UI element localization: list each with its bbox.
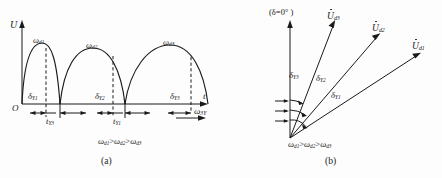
- peak-label-3: ωd3: [163, 38, 174, 47]
- angle-y2-sub: Y2: [320, 77, 326, 83]
- arc-leader-2-arrowhead: [284, 109, 289, 113]
- dim-arrow-2b-left: [125, 111, 131, 115]
- peak-label-2: ωd2: [86, 41, 97, 50]
- vector-ud2-sub: d2: [379, 27, 385, 33]
- dim-arrow-3a-left: [168, 111, 174, 115]
- arc-leader-3-arrowhead: [284, 99, 289, 103]
- inequality-b: ωd1>ωd2>ωd3: [288, 140, 331, 149]
- delta-label-1-sub: Y1: [32, 95, 38, 101]
- panel-a-caption-text: (a): [101, 156, 112, 166]
- vector-ud2-arrowhead: [372, 33, 381, 40]
- vector-ud3-line: [290, 26, 333, 138]
- delta-label-2: δY2: [95, 92, 105, 101]
- figure-container: | around delta_Y1 / t_Y3 -->: [0, 0, 442, 178]
- arc-leader-1-arrowhead: [284, 119, 289, 123]
- dim-arrow-2a-left: [97, 111, 103, 115]
- dim-arrow-1b-right: [81, 111, 87, 115]
- inequality-a-w3-sub: d3: [136, 140, 141, 146]
- panel-b-phasor: (δ=0° ) Ud3 Ud2 Ud1 δY3 δY2 δY1 ωd1>ωd2>…: [221, 0, 442, 178]
- vector-label-ud1: Ud1: [412, 42, 425, 52]
- peak-label-1: ωd1: [33, 36, 44, 45]
- origin-label-text: O: [12, 103, 19, 113]
- panel-a-waveform: | around delta_Y1 / t_Y3 -->: [0, 0, 221, 178]
- angle-y1-sub: Y1: [335, 94, 341, 100]
- vector-ud3-base-wrap: U: [327, 12, 334, 22]
- peak-label-2-sub: d2: [92, 44, 97, 50]
- delta-label-1: δY1: [28, 92, 38, 101]
- vector-label-ud2: Ud2: [372, 24, 385, 34]
- delta-label-2-sub: Y2: [99, 95, 105, 101]
- peak-label-3-sub: d3: [169, 41, 174, 47]
- reference-angle-label-text: (δ=0° ): [269, 7, 293, 17]
- vector-ud1-sub: d1: [419, 45, 425, 51]
- t-axis-arrowhead: [200, 101, 208, 107]
- dim-arrow-2a-right: [108, 111, 114, 115]
- inequality-b-w3-sub: d3: [326, 143, 331, 149]
- panel-b-caption: (b): [325, 156, 336, 166]
- delta-label-3: δY3: [170, 92, 180, 101]
- vector-ud1-base-wrap: U: [412, 42, 419, 52]
- vector-label-ud3: Ud3: [327, 12, 340, 22]
- time-label-1: tY3: [46, 117, 54, 126]
- delta-label-3-sub: Y3: [174, 95, 180, 101]
- waveform-arch-2: [60, 48, 125, 104]
- reference-axis-arrowhead: [287, 20, 293, 28]
- omega-3y-axis-label: ω3Y: [194, 107, 206, 117]
- dim-arrow-1a-left: [30, 111, 36, 115]
- dim-arrow-1a-right: [41, 111, 47, 115]
- time-label-2-sub: Y1: [115, 120, 121, 126]
- angle-arc-y2-arrowhead: [301, 113, 307, 118]
- angle-y3-sub: Y3: [293, 74, 299, 80]
- inequality-a: ωd1>ωd2>ωd3: [98, 137, 141, 146]
- y-axis-label-text: U: [10, 19, 17, 30]
- peak-label-1-sub: d1: [39, 39, 44, 45]
- vector-ud3-base: U: [327, 11, 334, 21]
- dim-arrow-2b-right: [145, 111, 151, 115]
- angle-label-delta-y1: δY1: [331, 91, 341, 100]
- vector-ud2-base-wrap: U: [372, 24, 379, 34]
- vector-ud3-sub: d3: [334, 15, 340, 21]
- y-axis-label: U: [10, 20, 17, 30]
- panel-a-graphics: | around delta_Y1 / t_Y3 -->: [0, 0, 221, 178]
- vector-ud2-base: U: [372, 23, 379, 33]
- origin-label: O: [12, 104, 19, 113]
- reference-angle-label: (δ=0° ): [269, 8, 293, 17]
- t-axis-label: t: [203, 92, 206, 101]
- time-label-1-sub: Y3: [48, 120, 54, 126]
- waveform-arch-3: [125, 45, 208, 104]
- dim-arrow-1b-left: [60, 111, 66, 115]
- panel-a-caption: (a): [101, 156, 112, 166]
- panel-b-graphics: [221, 0, 442, 178]
- time-label-2: tY1: [113, 117, 121, 126]
- dim-arrow-3a-right: [186, 111, 192, 115]
- angle-label-delta-y2: δY2: [316, 74, 326, 83]
- panel-b-caption-text: (b): [325, 156, 336, 166]
- y-axis-arrowhead: [19, 20, 25, 28]
- angle-label-delta-y3: δY3: [289, 71, 299, 80]
- omega-3y-sub: 3Y: [200, 110, 206, 116]
- vector-ud1-line: [290, 56, 416, 138]
- t-axis-label-text: t: [203, 91, 206, 101]
- vector-ud1-base: U: [412, 41, 419, 51]
